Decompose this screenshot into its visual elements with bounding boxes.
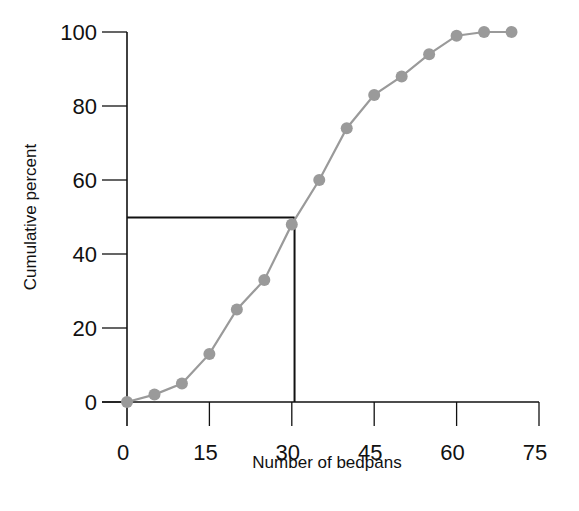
data-point-marker [258,274,270,286]
data-point-marker [506,26,518,38]
data-point-marker [451,30,463,42]
tick-labels: 02040608010001530456075 [60,20,547,465]
x-tick-label: 15 [193,440,217,465]
cumulative-percent-chart: 02040608010001530456075 Number of bedpan… [0,0,579,511]
y-tick-label: 80 [73,94,97,119]
data-point-marker [478,26,490,38]
data-point-marker [121,396,133,408]
y-tick-label: 20 [73,316,97,341]
data-point-marker [286,218,298,230]
data-point-marker [368,89,380,101]
y-tick-label: 40 [73,242,97,267]
data-point-marker [396,70,408,82]
x-tick-label: 75 [523,440,547,465]
data-point-marker [423,48,435,60]
axes [102,32,539,426]
x-axis-title: Number of bedpans [252,453,401,472]
data-point-marker [176,378,188,390]
x-tick-label: 60 [440,440,464,465]
data-point-marker [341,122,353,134]
x-tick-label: 0 [117,440,129,465]
y-axis-title: Cumulative percent [21,143,40,290]
data-point-marker [231,304,243,316]
median-guide-lines [127,218,295,403]
data-point-marker [203,348,215,360]
data-point-marker [148,389,160,401]
y-tick-label: 60 [73,168,97,193]
y-tick-label: 100 [60,20,97,45]
y-tick-label: 0 [85,390,97,415]
data-point-marker [313,174,325,186]
